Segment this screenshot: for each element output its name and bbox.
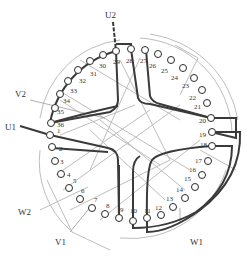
slot-label-35: 35 <box>57 108 65 116</box>
terminal-v1: V1 <box>55 237 66 247</box>
slot-2 <box>49 144 56 151</box>
slot-25 <box>168 57 175 64</box>
slot-label-29: 29 <box>113 58 121 66</box>
terminal-u1: U1 <box>5 122 16 132</box>
slot-label-31: 31 <box>90 70 98 78</box>
terminal-u2: U2 <box>105 10 116 20</box>
slot-21 <box>204 100 211 107</box>
light-coil-groups <box>39 34 238 250</box>
slot-29 <box>113 48 120 55</box>
slot-label-10: 10 <box>130 207 138 215</box>
slot-label-18: 18 <box>200 141 208 149</box>
slot-33 <box>65 78 72 85</box>
slot-label-33: 33 <box>70 87 78 95</box>
slot-6 <box>77 196 84 203</box>
slot-label-14: 14 <box>176 186 184 194</box>
slot-label-5: 5 <box>73 177 77 185</box>
slot-19 <box>209 129 216 136</box>
slot-label-16: 16 <box>189 166 197 174</box>
slot-label-20: 20 <box>199 117 207 125</box>
slot-4 <box>58 171 65 178</box>
slot-11 <box>144 215 151 222</box>
slot-1 <box>47 132 54 139</box>
slot-label-28: 28 <box>126 57 134 65</box>
slot-circles <box>47 46 216 225</box>
slot-label-13: 13 <box>166 195 174 203</box>
slot-label-34: 34 <box>63 97 71 105</box>
slot-5 <box>66 185 73 192</box>
slot-label-24: 24 <box>171 74 179 82</box>
slot-label-6: 6 <box>81 187 85 195</box>
slot-31 <box>87 58 94 65</box>
slot-label-17: 17 <box>195 157 203 165</box>
slot-16 <box>199 172 206 179</box>
slot-18 <box>209 143 216 150</box>
slot-label-8: 8 <box>106 202 110 210</box>
slot-13 <box>170 204 177 211</box>
slot-36 <box>48 120 55 127</box>
slot-22 <box>199 87 206 94</box>
slot-12 <box>158 212 165 219</box>
slot-label-2: 2 <box>59 145 63 153</box>
u-phase-coils <box>20 22 240 232</box>
slot-26 <box>155 51 162 58</box>
slot-label-21: 21 <box>194 103 202 111</box>
slot-7 <box>89 205 96 212</box>
slot-label-36: 36 <box>57 121 65 129</box>
slot-label-32: 32 <box>79 77 87 85</box>
slot-label-25: 25 <box>161 67 169 75</box>
slot-14 <box>182 195 189 202</box>
terminal-w2: W2 <box>18 207 31 217</box>
slot-label-11: 11 <box>144 207 151 215</box>
slot-label-4: 4 <box>67 171 71 179</box>
slot-label-15: 15 <box>184 175 192 183</box>
slot-20 <box>208 115 215 122</box>
slot-label-30: 30 <box>99 62 107 70</box>
slot-label-27: 27 <box>140 57 148 65</box>
slot-label-3: 3 <box>60 158 64 166</box>
slot-label-9: 9 <box>120 206 124 214</box>
slot-27 <box>142 47 149 54</box>
terminal-v2: V2 <box>15 89 26 99</box>
slot-label-23: 23 <box>182 82 190 90</box>
slot-3 <box>52 158 59 165</box>
slot-17 <box>205 158 212 165</box>
slot-label-22: 22 <box>189 94 197 102</box>
slot-24 <box>180 65 187 72</box>
slot-9 <box>116 215 123 222</box>
slot-label-7: 7 <box>94 196 98 204</box>
slot-8 <box>102 211 109 218</box>
slot-label-26: 26 <box>149 62 157 70</box>
slot-label-19: 19 <box>199 131 207 139</box>
slot-23 <box>191 75 198 82</box>
terminal-w1: W1 <box>190 237 203 247</box>
winding-diagram: 1 2 3 4 5 6 7 8 9 10 11 12 13 14 15 16 1… <box>0 0 247 257</box>
slot-28 <box>128 46 135 53</box>
slot-label-12: 12 <box>155 204 163 212</box>
slot-30 <box>100 52 107 59</box>
slot-10 <box>130 218 137 225</box>
slot-15 <box>192 184 199 191</box>
slot-32 <box>75 67 82 74</box>
